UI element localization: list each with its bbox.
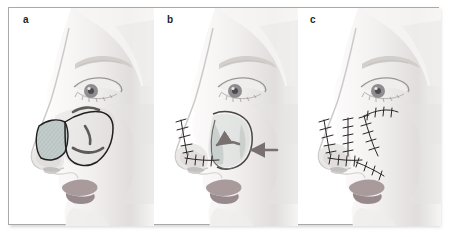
panel-c: c bbox=[298, 8, 441, 224]
illustration-c bbox=[298, 8, 441, 224]
figure-frame: a bbox=[8, 7, 439, 225]
panel-b: b bbox=[155, 8, 298, 224]
panel-label-a: a bbox=[23, 14, 29, 25]
panel-label-c: c bbox=[310, 14, 316, 25]
nasal-defect-a bbox=[36, 120, 68, 160]
panel-label-b: b bbox=[167, 14, 173, 25]
panel-a: a bbox=[11, 8, 154, 224]
illustration-b bbox=[155, 8, 298, 224]
illustration-a bbox=[11, 8, 154, 224]
